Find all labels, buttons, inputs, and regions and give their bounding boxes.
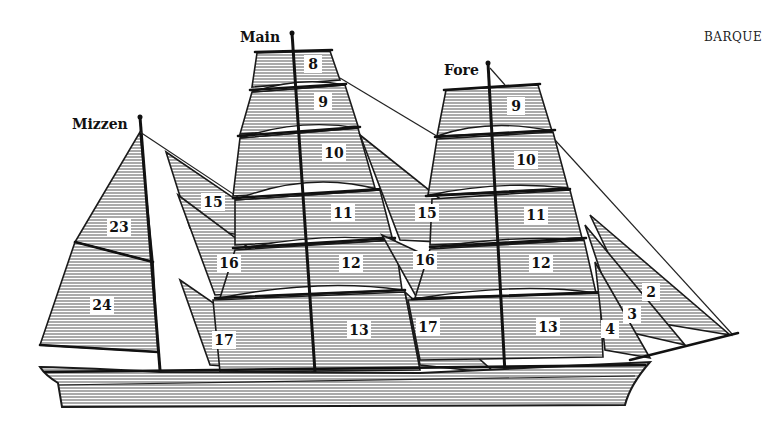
sail-label-main-12: 12 bbox=[339, 254, 363, 272]
svg-text:17: 17 bbox=[214, 332, 233, 348]
sail-13-mainsail bbox=[213, 292, 420, 372]
sail-label-main-11: 11 bbox=[331, 204, 355, 222]
svg-text:11: 11 bbox=[526, 207, 545, 223]
svg-text:13: 13 bbox=[349, 322, 368, 338]
sail-label-fore-9: 9 bbox=[507, 97, 525, 115]
sail-label-fore-16: 16 bbox=[413, 251, 437, 269]
svg-text:15: 15 bbox=[417, 205, 436, 221]
svg-text:16: 16 bbox=[415, 252, 434, 268]
barque-sail-plan: BARQUE Mizzen Main Fore bbox=[0, 0, 780, 434]
sail-label-jib-3: 3 bbox=[623, 305, 641, 323]
sail-label-main-10: 10 bbox=[322, 144, 346, 162]
svg-text:3: 3 bbox=[627, 306, 637, 322]
sail-label-fore-12: 12 bbox=[529, 254, 553, 272]
bowsprit bbox=[630, 333, 738, 360]
svg-text:9: 9 bbox=[511, 98, 521, 114]
sail-label-main-17: 17 bbox=[212, 331, 236, 349]
svg-text:15: 15 bbox=[203, 194, 222, 210]
ship-type-title: BARQUE bbox=[704, 30, 762, 44]
svg-text:2: 2 bbox=[646, 284, 656, 300]
sail-11-fore-upper-topsail bbox=[430, 190, 582, 245]
sail-label-fore-10: 10 bbox=[514, 151, 538, 169]
svg-text:13: 13 bbox=[538, 319, 557, 335]
svg-text:10: 10 bbox=[324, 145, 344, 161]
sail-label-fore-15: 15 bbox=[415, 204, 439, 222]
svg-text:4: 4 bbox=[605, 321, 615, 337]
sail-label-main-15: 15 bbox=[201, 193, 225, 211]
sail-label-fore-11: 11 bbox=[524, 206, 548, 224]
sail-label-main-8: 8 bbox=[304, 55, 322, 73]
sail-label-mizzen-23: 23 bbox=[107, 218, 131, 236]
mast-label-main: Main bbox=[240, 29, 280, 45]
sail-label-fore-13: 13 bbox=[536, 318, 560, 336]
svg-text:12: 12 bbox=[341, 255, 360, 271]
sail-label-mizzen-24: 24 bbox=[90, 296, 114, 314]
svg-text:11: 11 bbox=[333, 205, 352, 221]
sail-label-jib-2: 2 bbox=[642, 283, 660, 301]
sail-label-main-13: 13 bbox=[347, 321, 371, 339]
sail-label-main-9: 9 bbox=[314, 93, 332, 111]
svg-text:16: 16 bbox=[219, 255, 238, 271]
svg-text:8: 8 bbox=[308, 56, 318, 72]
svg-text:24: 24 bbox=[92, 297, 112, 313]
svg-text:17: 17 bbox=[418, 319, 437, 335]
sail-label-fore-17: 17 bbox=[416, 318, 440, 336]
svg-text:9: 9 bbox=[318, 94, 328, 110]
sail-label-jib-4: 4 bbox=[601, 320, 619, 338]
mast-label-mizzen: Mizzen bbox=[72, 116, 128, 132]
mast-label-fore: Fore bbox=[444, 62, 479, 78]
sail-label-main-16: 16 bbox=[217, 254, 241, 272]
svg-text:12: 12 bbox=[531, 255, 550, 271]
svg-text:23: 23 bbox=[109, 219, 128, 235]
svg-text:10: 10 bbox=[516, 152, 536, 168]
